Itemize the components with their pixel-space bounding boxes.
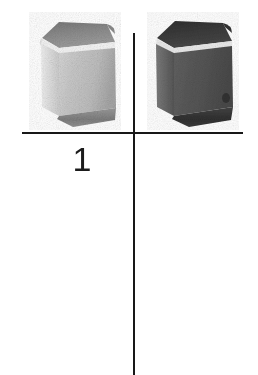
- figure-canvas: 1: [0, 0, 258, 375]
- cube-light: [29, 12, 121, 130]
- cube-dark: [147, 12, 239, 130]
- vertical-axis-line: [133, 33, 135, 375]
- quadrant-label: 1: [64, 142, 100, 176]
